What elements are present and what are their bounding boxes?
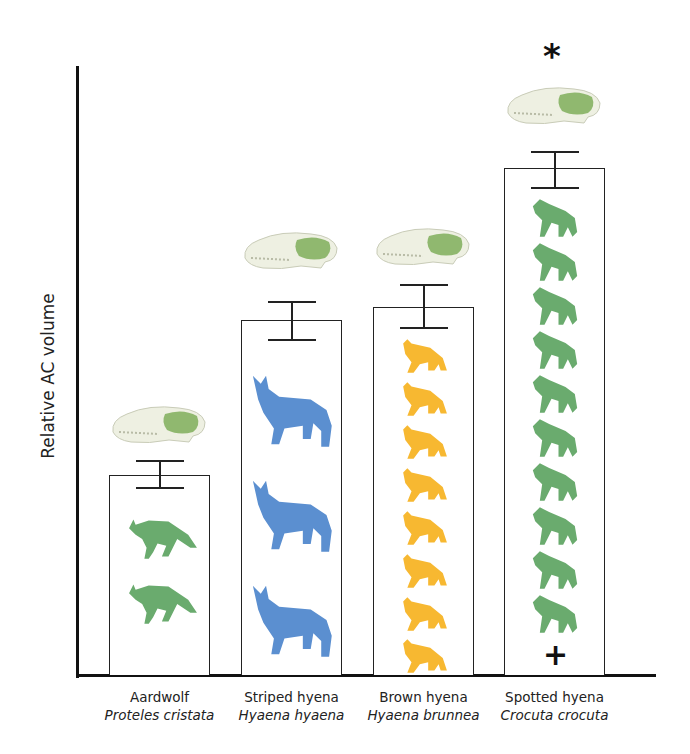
skull-icon [109,402,209,446]
y-axis-label: Relative AC volume [38,276,58,476]
striped-silhouette-icon [245,575,337,665]
spotted-silhouette-icon [530,461,580,503]
category-label: Spotted hyenaCrocuta crocuta [474,688,635,724]
error-bar-cap [136,460,184,462]
spotted-silhouette-icon [530,241,580,283]
brown-silhouette-icon [399,508,449,548]
error-bar-cap [531,151,579,153]
brown-silhouette-icon [399,336,449,376]
spotted-silhouette-icon [530,549,580,591]
common-name: Spotted hyena [474,688,635,706]
error-bar-cap [268,301,316,303]
spotted-silhouette-icon [530,329,580,371]
brown-silhouette-icon [399,594,449,634]
spotted-silhouette-icon [530,505,580,547]
brown-silhouette-icon [399,379,449,419]
error-bar-cap [531,187,579,189]
error-bar [291,302,293,340]
error-bar [423,285,425,328]
striped-silhouette-icon [245,470,337,560]
brown-silhouette-icon [399,551,449,591]
significance-asterisk: * [543,36,561,76]
spotted-silhouette-icon [530,373,580,415]
brown-silhouette-icon [399,422,449,462]
error-bar-cap [136,487,184,489]
brown-silhouette-icon [399,465,449,505]
error-bar [159,461,161,488]
spotted-silhouette-icon [530,417,580,459]
error-bar-cap [400,284,448,286]
y-axis [76,66,79,678]
aardwolf-silhouette-icon [115,580,211,626]
plus-marker: + [543,637,568,672]
error-bar [554,152,556,188]
skull-icon [504,83,604,127]
aardwolf-silhouette-icon [115,515,211,561]
spotted-silhouette-icon [530,285,580,327]
error-bar-cap [400,327,448,329]
brown-silhouette-icon [399,636,449,676]
spotted-silhouette-icon [530,197,580,239]
bar-aardwolf [109,475,210,675]
scientific-name: Crocuta crocuta [474,706,635,724]
spotted-silhouette-icon [530,593,580,635]
striped-silhouette-icon [245,365,337,455]
skull-icon [373,224,473,268]
error-bar-cap [268,339,316,341]
skull-icon [241,228,341,272]
